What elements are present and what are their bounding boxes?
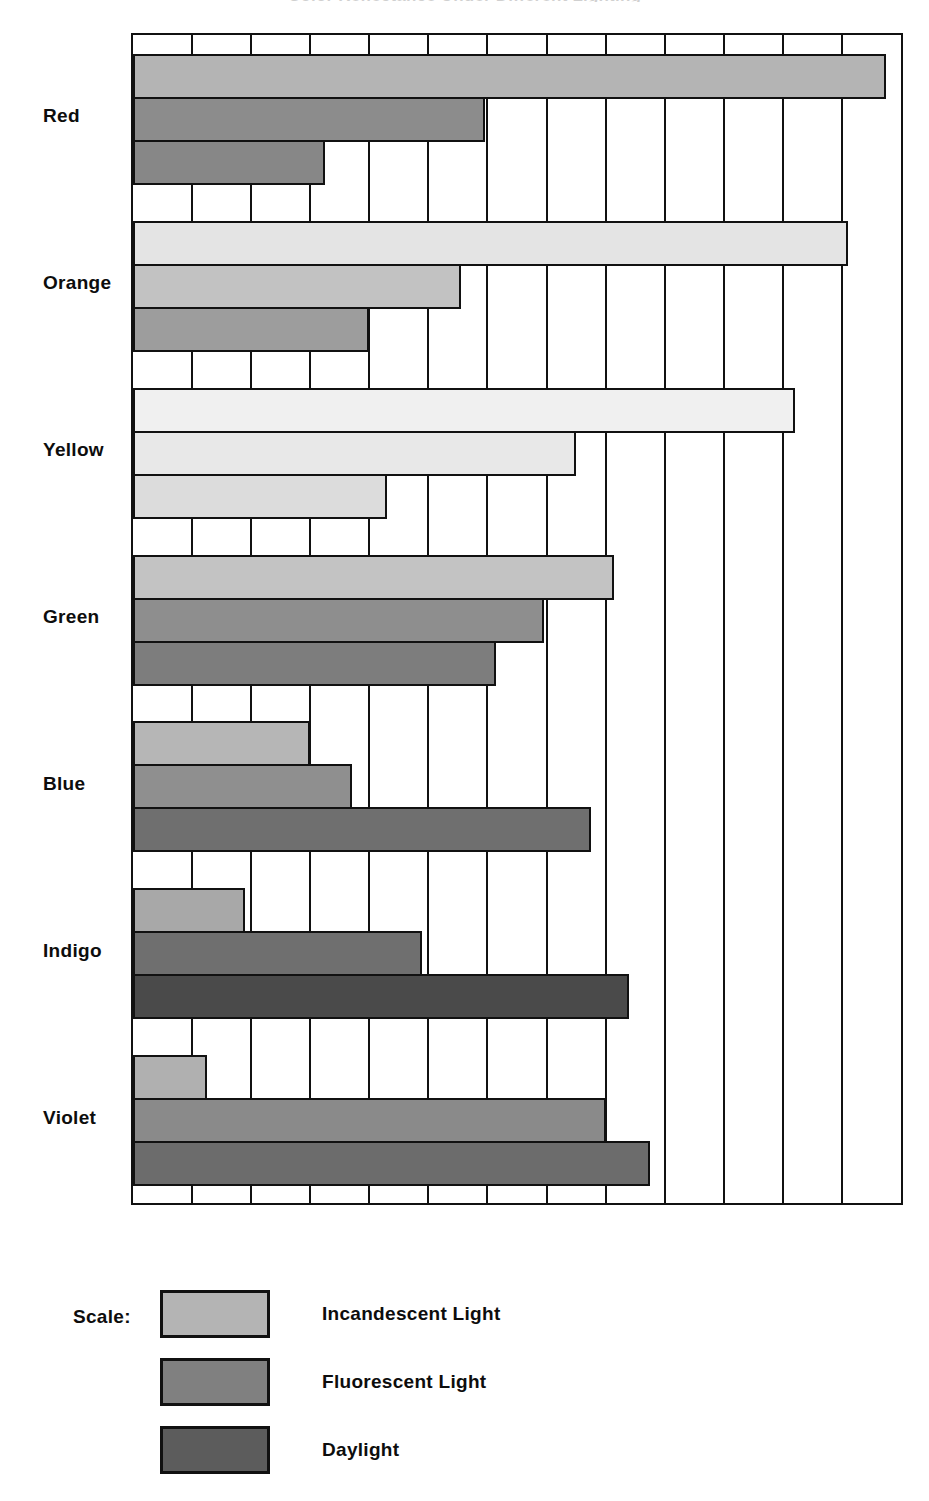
category-label-blue: Blue: [0, 773, 126, 795]
bar-blue-incandescent-light: [133, 721, 310, 766]
legend-label-fluorescent-light: Fluorescent Light: [322, 1371, 487, 1393]
bar-green-incandescent-light: [133, 555, 614, 600]
bar-yellow-fluorescent-light: [133, 431, 576, 476]
legend-swatch-incandescent-light: [160, 1290, 270, 1338]
bar-yellow-incandescent-light: [133, 388, 795, 433]
bar-chart: Color Reflectance Under Different Lighti…: [0, 0, 929, 1501]
bar-indigo-fluorescent-light: [133, 931, 422, 976]
category-axis-labels: RedOrangeYellowGreenBlueIndigoViolet: [0, 33, 126, 1205]
category-label-yellow: Yellow: [0, 439, 126, 461]
legend-swatch-fluorescent-light: [160, 1358, 270, 1406]
bar-green-fluorescent-light: [133, 598, 544, 643]
legend-label-incandescent-light: Incandescent Light: [322, 1303, 501, 1325]
bar-red-fluorescent-light: [133, 97, 485, 142]
bar-indigo-daylight: [133, 974, 629, 1019]
legend-label-daylight: Daylight: [322, 1439, 399, 1461]
bar-yellow-daylight: [133, 474, 387, 519]
bar-orange-incandescent-light: [133, 221, 848, 266]
legend-entry-fluorescent-light[interactable]: Fluorescent Light: [0, 1358, 929, 1410]
bar-blue-fluorescent-light: [133, 764, 352, 809]
legend-swatch-daylight: [160, 1426, 270, 1474]
plot-area: [131, 33, 903, 1205]
legend-entry-incandescent-light[interactable]: Incandescent Light: [0, 1290, 929, 1342]
category-label-violet: Violet: [0, 1107, 126, 1129]
bar-violet-incandescent-light: [133, 1055, 207, 1100]
bar-violet-fluorescent-light: [133, 1098, 606, 1143]
category-label-red: Red: [0, 105, 126, 127]
bar-blue-daylight: [133, 807, 591, 852]
bar-orange-fluorescent-light: [133, 264, 461, 309]
bar-series-container: [133, 35, 901, 1203]
chart-legend: Scale: Incandescent LightFluorescent Lig…: [0, 1268, 929, 1468]
bar-violet-daylight: [133, 1141, 650, 1186]
bar-indigo-incandescent-light: [133, 888, 245, 933]
bar-red-incandescent-light: [133, 54, 886, 99]
chart-title: Color Reflectance Under Different Lighti…: [0, 0, 929, 2]
category-label-indigo: Indigo: [0, 940, 126, 962]
bar-green-daylight: [133, 641, 496, 686]
legend-entry-daylight[interactable]: Daylight: [0, 1426, 929, 1478]
bar-red-daylight: [133, 140, 325, 185]
bar-orange-daylight: [133, 307, 369, 352]
category-label-orange: Orange: [0, 272, 126, 294]
category-label-green: Green: [0, 606, 126, 628]
